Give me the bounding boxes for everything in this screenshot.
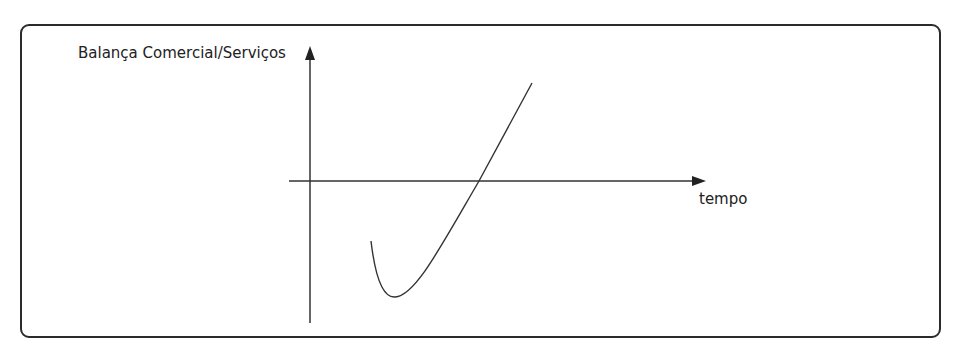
x-axis-arrow-icon bbox=[692, 176, 706, 186]
x-axis-label: tempo bbox=[699, 190, 747, 208]
y-axis-label: Balança Comercial/Serviços bbox=[78, 44, 286, 62]
j-curve-line bbox=[371, 83, 532, 297]
y-axis-arrow-icon bbox=[305, 46, 315, 60]
